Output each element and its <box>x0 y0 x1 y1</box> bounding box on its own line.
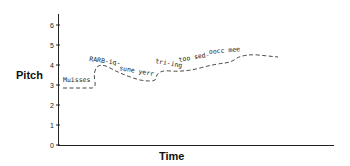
svg-text:5: 5 <box>50 42 54 49</box>
svg-text:4: 4 <box>50 62 54 69</box>
svg-text:2: 2 <box>50 102 54 109</box>
svg-text:3: 3 <box>50 82 54 89</box>
svg-text:6: 6 <box>50 22 54 29</box>
phrase-oocc-mee: oocc mee <box>208 45 240 56</box>
phrase-muisses: Muisses <box>63 76 90 84</box>
svg-text:1: 1 <box>50 122 54 129</box>
pitch-chart: 0 1 2 3 4 5 6 Pitch Time Muisses RARB-iq… <box>0 0 350 166</box>
y-axis-label: Pitch <box>16 69 43 81</box>
phrase-too-sed: too sed- <box>178 51 210 64</box>
svg-text:0: 0 <box>50 142 54 149</box>
y-tick-labels: 0 1 2 3 4 5 6 <box>50 22 54 149</box>
x-axis-label: Time <box>159 150 184 162</box>
phrase-sune-yerr: sune yerr <box>119 64 155 78</box>
